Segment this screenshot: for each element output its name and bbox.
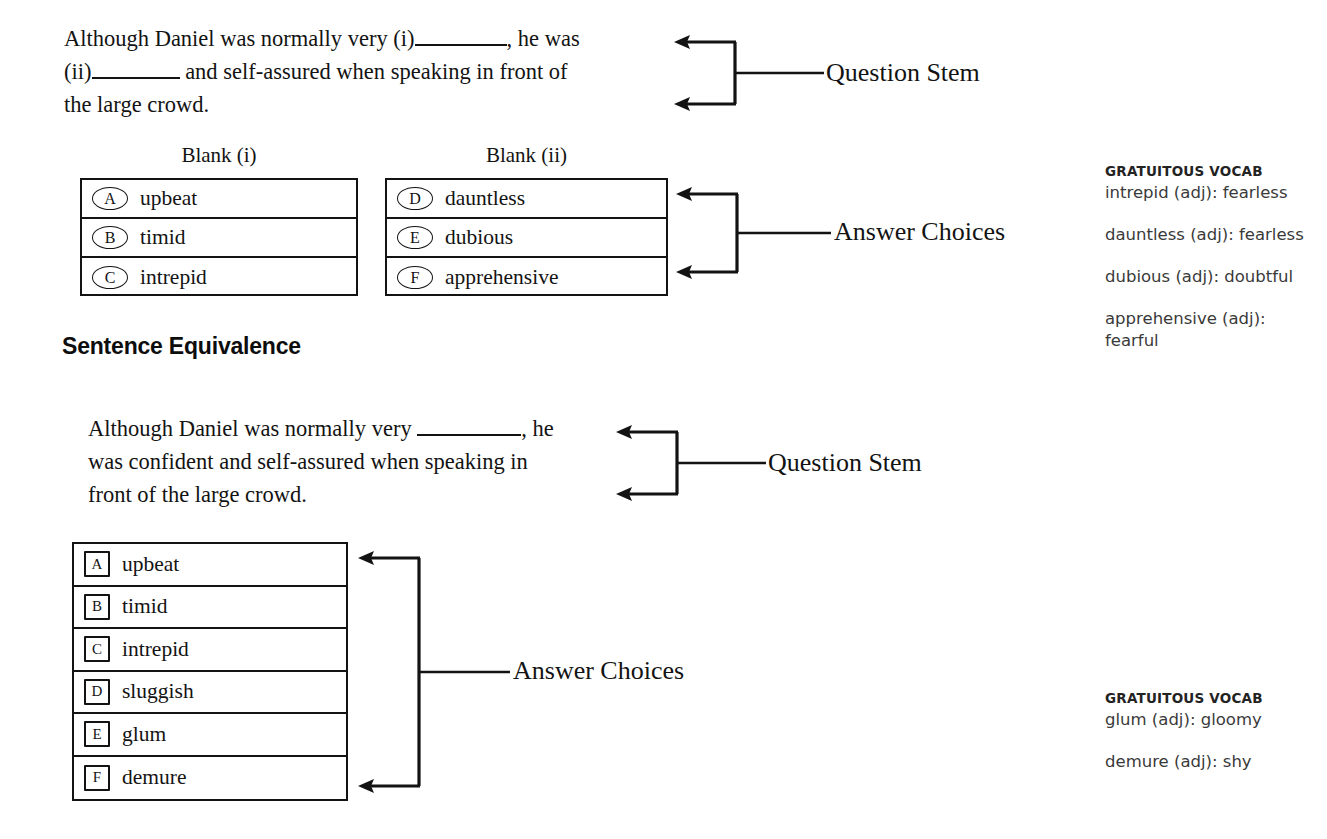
choice-text: dubious [445, 225, 513, 250]
choice-marker-c-icon[interactable]: C [84, 636, 110, 662]
vocab-title: GRATUITOUS VOCAB [1105, 163, 1320, 179]
choice-marker-a-icon[interactable]: A [92, 187, 128, 210]
choice-text: intrepid [140, 265, 207, 290]
choice-marker-a-icon[interactable]: A [84, 551, 110, 577]
gratuitous-vocab-bottom: GRATUITOUS VOCAB glum (adj): gloomy demu… [1105, 690, 1320, 773]
blank-ii-underline [92, 77, 180, 79]
vocab-entry: glum (adj): gloomy [1105, 709, 1320, 731]
choice-row[interactable]: F apprehensive [387, 258, 666, 297]
vocab-entry: dubious (adj): doubtful [1105, 266, 1320, 288]
choice-row[interactable]: E dubious [387, 219, 666, 258]
annotation-label-answer-choices-se: Answer Choices [513, 656, 684, 686]
choice-text: demure [122, 765, 186, 790]
choice-text: dauntless [445, 186, 525, 211]
choice-row[interactable]: A upbeat [74, 544, 346, 587]
stem-part-1: Although Daniel was normally very (i) [64, 26, 415, 51]
choice-marker-b-icon[interactable]: B [84, 594, 110, 620]
se-blank-underline [417, 434, 521, 436]
vocab-entry: apprehensive (adj): fearful [1105, 308, 1320, 352]
annotation-question-stem-se: Question Stem [616, 420, 836, 510]
choice-row[interactable]: C intrepid [82, 258, 356, 297]
choice-marker-f-icon[interactable]: F [84, 765, 110, 791]
annotation-answer-choices-tc: Answer Choices [676, 186, 916, 286]
vocab-entry: demure (adj): shy [1105, 751, 1320, 773]
annotation-answer-choices-se: Answer Choices [358, 548, 618, 798]
choice-row[interactable]: B timid [74, 587, 346, 630]
se-stem-part-1: Although Daniel was normally very [88, 416, 417, 441]
worksheet-page: Although Daniel was normally very (i), h… [0, 0, 1327, 839]
column-header-blank-ii: Blank (ii) [385, 143, 668, 168]
annotation-label-question-stem-se: Question Stem [768, 448, 922, 478]
choice-marker-e-icon[interactable]: E [84, 721, 110, 747]
answer-choices-sentence-equivalence: A upbeat B timid C intrepid D sluggish E… [72, 542, 348, 801]
choice-marker-d-icon[interactable]: D [84, 679, 110, 705]
choice-row[interactable]: D dauntless [387, 180, 666, 219]
choice-row[interactable]: F demure [74, 757, 346, 800]
choice-text: sluggish [122, 679, 194, 704]
vocab-entry: dauntless (adj): fearless [1105, 224, 1320, 246]
choice-marker-f-icon[interactable]: F [397, 266, 433, 289]
column-header-blank-i: Blank (i) [80, 143, 358, 168]
blank-i-underline [415, 44, 507, 46]
choice-marker-d-icon[interactable]: D [397, 187, 433, 210]
choice-text: timid [140, 225, 185, 250]
choice-row[interactable]: A upbeat [82, 180, 356, 219]
stem-part-3: and self-assured when speaking in front … [64, 59, 568, 117]
sentence-equivalence-stem: Although Daniel was normally very , he w… [88, 412, 633, 511]
choice-text: glum [122, 722, 166, 747]
choice-row[interactable]: C intrepid [74, 629, 346, 672]
section-heading: Sentence Equivalence [62, 333, 301, 360]
gratuitous-vocab-top: GRATUITOUS VOCAB intrepid (adj): fearles… [1105, 163, 1320, 352]
vocab-entry: intrepid (adj): fearless [1105, 182, 1320, 204]
choice-text: upbeat [140, 186, 197, 211]
choice-row[interactable]: D sluggish [74, 672, 346, 715]
answer-choices-blank-ii: D dauntless E dubious F apprehensive [385, 178, 668, 296]
choice-row[interactable]: B timid [82, 219, 356, 258]
choice-text: upbeat [122, 552, 179, 577]
annotation-question-stem-tc: Question Stem [674, 30, 894, 120]
choice-text: timid [122, 594, 167, 619]
choice-marker-b-icon[interactable]: B [92, 226, 128, 249]
vocab-title: GRATUITOUS VOCAB [1105, 690, 1320, 706]
choice-row[interactable]: E glum [74, 714, 346, 757]
annotation-label-answer-choices-tc: Answer Choices [834, 217, 1005, 247]
annotation-label-question-stem-tc: Question Stem [826, 58, 980, 88]
choice-marker-c-icon[interactable]: C [92, 266, 128, 289]
choice-text: intrepid [122, 637, 189, 662]
answer-choices-blank-i: A upbeat B timid C intrepid [80, 178, 358, 296]
choice-marker-e-icon[interactable]: E [397, 226, 433, 249]
choice-text: apprehensive [445, 265, 558, 290]
text-completion-stem: Although Daniel was normally very (i), h… [64, 22, 664, 121]
